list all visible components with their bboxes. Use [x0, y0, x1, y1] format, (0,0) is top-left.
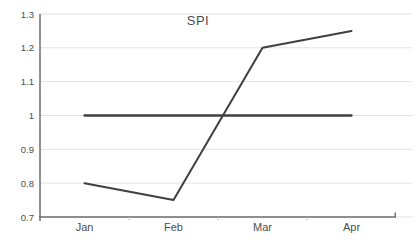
y-tick-label: 0.7: [21, 212, 34, 223]
x-category-label: Apr: [343, 221, 360, 233]
spi-line-chart: SPI 1.31.21.110.90.80.7JanFebMarApr: [0, 0, 417, 248]
plot-area: 1.31.21.110.90.80.7JanFebMarApr: [0, 0, 417, 248]
y-tick-label: 1.1: [21, 76, 34, 87]
y-tick-label: 1.2: [21, 42, 34, 53]
y-tick-label: 1: [29, 110, 34, 121]
y-tick-label: 1.3: [21, 9, 34, 20]
x-category-label: Mar: [253, 221, 272, 233]
y-tick-label: 0.8: [21, 178, 34, 189]
x-category-label: Feb: [164, 221, 183, 233]
x-category-label: Jan: [76, 221, 94, 233]
y-tick-label: 0.9: [21, 144, 34, 155]
